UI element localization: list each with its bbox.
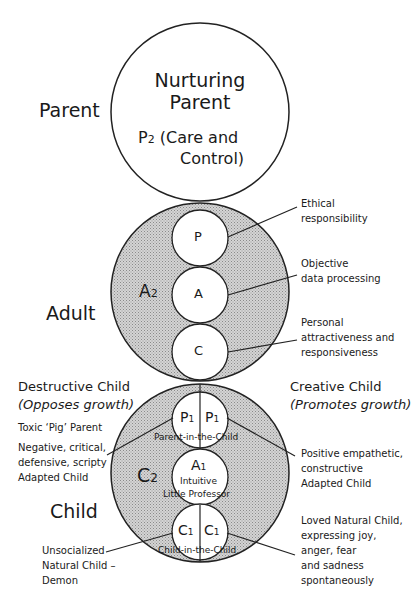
loved-natural-child: Loved Natural Child, expressing joy, ang…: [301, 513, 403, 588]
annotation-line: expressing joy,: [301, 528, 403, 543]
annotation-line: Adapted Child: [18, 470, 107, 485]
c2-sub: 2: [150, 471, 158, 485]
parent-in-the-child-caption: Parent-in-the-Child: [154, 432, 238, 442]
positive-adapted-child: Positive empathetic, constructive Adapte…: [301, 446, 403, 491]
destructive-child-title: Destructive Child: [18, 380, 130, 395]
intuitive-caption: Intuitive: [180, 476, 217, 486]
a2-label: A2: [139, 282, 158, 302]
annotation-line: Demon: [42, 573, 115, 588]
annotation-line: Loved Natural Child,: [301, 513, 403, 528]
ethical-annotation: Ethical responsibility: [301, 196, 368, 226]
personal-annotation: Personal attractiveness and responsivene…: [301, 315, 394, 360]
c1-sub: 1: [214, 527, 220, 537]
annotation-line: data processing: [301, 271, 381, 286]
adult-c-letter: C: [194, 344, 203, 359]
adult-a-letter: A: [194, 287, 203, 302]
c2-letter: C: [137, 464, 150, 486]
a1-letter: A: [191, 457, 201, 473]
annotation-line: Unsocialized: [42, 543, 115, 558]
p1-sub: 1: [213, 414, 219, 424]
p2-control: Control): [180, 150, 244, 168]
annotation-line: defensive, scripty: [18, 455, 107, 470]
a2-sub: 2: [151, 287, 158, 300]
p2-sub: 2: [148, 133, 155, 146]
c1-right-label: C1: [204, 522, 220, 538]
creative-child-subtitle: (Promotes growth): [290, 398, 411, 413]
negative-adapted-child: Negative, critical, defensive, scripty A…: [18, 440, 107, 485]
child-in-the-child-caption: Child-in-the-Child: [158, 545, 236, 555]
child-label: Child: [50, 501, 98, 523]
p1-sub: 1: [188, 414, 194, 424]
annotation-line: responsibility: [301, 211, 368, 226]
p2-label: P2 (Care and: [138, 129, 238, 147]
annotation-line: spontaneously: [301, 573, 403, 588]
annotation-line: Positive empathetic,: [301, 446, 403, 461]
adult-label: Adult: [46, 303, 96, 325]
toxic-pig-parent: Toxic ‘Pig’ Parent: [18, 420, 102, 435]
adult-p-letter: P: [194, 230, 202, 245]
annotation-line: constructive: [301, 461, 403, 476]
c2-label: C2: [137, 465, 158, 487]
p1-left-label: P1: [180, 409, 194, 425]
creative-child-title: Creative Child: [290, 380, 381, 395]
p2-rest: (Care and: [155, 128, 239, 147]
nurturing-parent-title: Nurturing Parent: [152, 70, 248, 114]
c1-sub: 1: [188, 527, 194, 537]
annotation-line: Personal: [301, 315, 394, 330]
c1-left-label: C1: [178, 522, 194, 538]
annotation-line: anger, fear: [301, 543, 403, 558]
annotation-line: and sadness: [301, 558, 403, 573]
little-professor-caption: Little Professor: [163, 489, 230, 499]
destructive-child-subtitle: (Opposes growth): [18, 398, 134, 413]
c1-letter: C: [178, 522, 188, 538]
a2-letter: A: [139, 281, 151, 301]
annotation-line: Objective: [301, 256, 381, 271]
annotation-line: attractiveness and: [301, 330, 394, 345]
title-line: Parent: [152, 92, 248, 114]
annotation-line: Ethical: [301, 196, 368, 211]
objective-annotation: Objective data processing: [301, 256, 381, 286]
annotation-line: responsiveness: [301, 345, 394, 360]
p1-right-label: P1: [205, 409, 219, 425]
title-line: Nurturing: [152, 70, 248, 92]
annotation-line: Adapted Child: [301, 476, 403, 491]
a1-sub: 1: [201, 462, 207, 472]
c1-letter: C: [204, 522, 214, 538]
unsocialized-natural-child: Unsocialized Natural Child – Demon: [42, 543, 115, 588]
annotation-line: Natural Child –: [42, 558, 115, 573]
p2-letter: P: [138, 128, 148, 147]
annotation-line: Negative, critical,: [18, 440, 107, 455]
parent-label: Parent: [39, 100, 100, 122]
a1-label: A1: [191, 457, 206, 473]
